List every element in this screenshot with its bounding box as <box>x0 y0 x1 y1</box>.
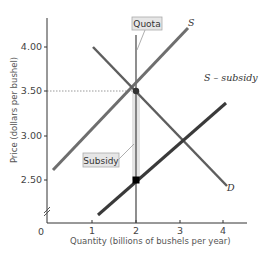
x-tick-label: 0 <box>38 226 44 237</box>
subsidy-callout-label: Subsidy <box>83 156 119 166</box>
label-S-subsidy: S – subsidy <box>204 72 258 83</box>
x-tick-label: 4 <box>220 225 226 236</box>
quota-callout-label: Quota <box>133 19 160 29</box>
label-S: S <box>188 17 195 28</box>
quota-subsidy-chart: 4.00 3.50 3.00 2.50 0 1 2 3 4 Quantity (… <box>0 0 261 253</box>
point-quota-price-2.50 <box>133 177 140 184</box>
y-axis-title: Price (dollars per bushel) <box>9 57 19 163</box>
x-tick-label: 3 <box>177 225 183 236</box>
x-tick-label: 2 <box>133 225 139 236</box>
x-axis-title: Quantity (billions of bushels per year) <box>70 236 231 246</box>
point-quota-price-3.50 <box>133 88 139 94</box>
supply-curve-S <box>53 28 188 170</box>
quota-callout-leader <box>137 30 145 50</box>
y-tick-label: 4.00 <box>21 41 42 52</box>
y-tick-label: 3.50 <box>21 85 42 96</box>
label-D: D <box>226 182 235 193</box>
x-tick-label: 1 <box>89 225 95 236</box>
y-tick-label: 2.50 <box>21 174 42 185</box>
y-tick-label: 3.00 <box>21 130 42 141</box>
subsidy-callout-leader <box>119 144 134 159</box>
